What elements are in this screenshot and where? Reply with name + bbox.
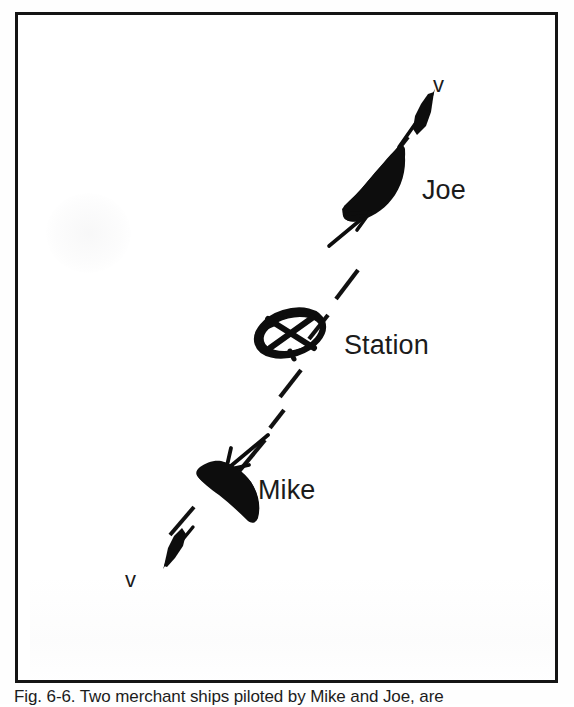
ship-joe (342, 145, 405, 222)
figure-drawing (18, 15, 558, 683)
label-joe: Joe (422, 175, 466, 206)
velocity-vector-mike (163, 527, 193, 569)
figure-caption: Fig. 6-6. Two merchant ships piloted by … (14, 686, 570, 707)
label-velocity-bottom: v (125, 567, 136, 593)
ship-mike (196, 461, 259, 523)
label-velocity-top: v (433, 72, 444, 98)
station-marker (251, 303, 329, 364)
figure-frame: Joe Station Mike v v (15, 12, 558, 683)
label-station: Station (344, 330, 429, 361)
velocity-vector-joe (399, 89, 435, 147)
force-arrow-mike (226, 435, 268, 470)
label-mike: Mike (258, 475, 315, 506)
